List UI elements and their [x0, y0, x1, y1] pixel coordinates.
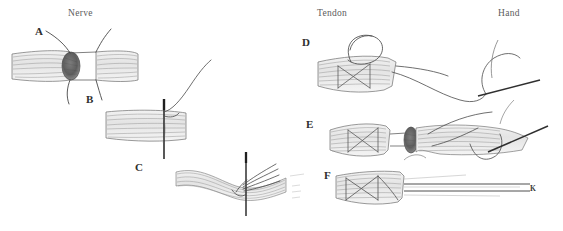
marker-label-k: K	[530, 185, 536, 193]
panel-b-sutures	[164, 60, 211, 117]
panel-letter-f: F	[324, 170, 331, 181]
panel-c-drawing	[176, 152, 286, 216]
panel-letter-e: E	[306, 119, 313, 130]
trailing-thread-d	[392, 54, 520, 102]
long-strands-f	[404, 184, 530, 191]
bridge-strands-e	[390, 133, 406, 146]
panel-f-drawing	[336, 155, 530, 204]
anatomical-label-tendon: Tendon	[317, 9, 347, 19]
stray-arc-f	[404, 155, 426, 160]
thread-arc-e	[500, 100, 514, 124]
tendon-left-e	[330, 124, 390, 156]
panel-letter-d: D	[302, 37, 310, 48]
panel-a-drawing	[12, 29, 138, 104]
tendon-right-e	[416, 125, 528, 155]
needle-d	[478, 80, 540, 96]
strand-shading-f	[404, 175, 520, 196]
figure-canvas: Nerve Tendon Hand A B C D E F K	[0, 0, 563, 231]
anatomical-label-nerve: Nerve	[68, 9, 93, 19]
stray-marks-left	[290, 174, 304, 198]
panel-letter-b: B	[86, 94, 93, 105]
panel-e-drawing	[330, 100, 548, 159]
panel-letter-c: C	[135, 162, 143, 173]
anatomical-label-hand: Hand	[498, 9, 520, 19]
panel-d-drawing	[318, 35, 540, 101]
surgical-illustration-svg	[0, 0, 563, 231]
panel-letter-a: A	[35, 26, 43, 37]
